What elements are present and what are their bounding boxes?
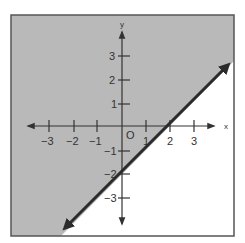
svg-text:3: 3: [109, 50, 115, 62]
svg-text:1: 1: [111, 98, 117, 110]
svg-text:−3: −3: [104, 192, 117, 204]
svg-text:2: 2: [167, 135, 173, 147]
svg-text:3: 3: [191, 135, 197, 147]
x-axis-label: x: [224, 122, 228, 131]
inequality-graph: x y −3 −2 −1 1 2 3 O 3 2 1 −1 −2 −3: [0, 0, 245, 243]
svg-text:2: 2: [109, 74, 115, 86]
svg-text:−3: −3: [41, 135, 54, 147]
svg-text:−1: −1: [104, 145, 117, 157]
origin-label: O: [126, 129, 135, 141]
svg-text:−2: −2: [66, 135, 79, 147]
svg-text:−1: −1: [89, 135, 102, 147]
y-axis-label: y: [120, 20, 124, 29]
